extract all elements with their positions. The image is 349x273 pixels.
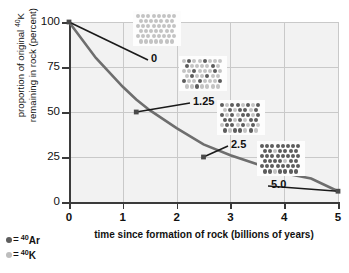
atom-argon-40 [241,123,245,127]
atom-potassium-40 [154,39,158,43]
atom-argon-40 [281,164,285,168]
atom-argon-40 [265,164,269,168]
atom-potassium-40 [283,159,287,163]
atom-potassium-40 [216,84,220,88]
atom-grid-caption: 0 [151,52,157,64]
atom-potassium-40 [223,108,227,112]
atom-potassium-40 [256,123,260,127]
atom-potassium-40 [251,103,255,107]
legend-argon-dot-icon [6,237,12,243]
atom-potassium-40 [154,29,158,33]
atom-argon-40 [286,154,290,158]
atom-potassium-40 [251,113,255,117]
atom-potassium-40 [136,24,140,28]
atom-argon-40 [254,108,258,112]
atom-potassium-40 [273,149,277,153]
y-tick-mark [62,22,70,24]
y-tick-mark [62,157,70,159]
atom-potassium-40 [170,29,174,33]
atom-potassium-40 [167,34,171,38]
x-tick-label: 3 [218,211,242,223]
atom-potassium-40 [139,29,143,33]
atom-argon-40 [223,128,227,132]
atom-argon-40 [276,164,280,168]
atom-argon-40 [198,79,202,83]
atom-grid [217,100,265,135]
atom-argon-40 [225,123,229,127]
atom-potassium-40 [220,123,224,127]
atom-potassium-40 [236,113,240,117]
atom-potassium-40 [187,69,191,73]
atom-potassium-40 [152,24,156,28]
atom-argon-40 [278,159,282,163]
atom-potassium-40 [243,118,247,122]
atom-argon-40 [268,159,272,163]
atom-potassium-40 [144,39,148,43]
atom-potassium-40 [228,128,232,132]
atom-grid [179,56,227,91]
x-tick-mark [177,202,179,209]
y-tick-label: 25 [30,150,60,162]
atom-potassium-40 [139,39,143,43]
atom-argon-40 [270,164,274,168]
atom-potassium-40 [172,34,176,38]
legend-equals-sign: = [13,249,19,260]
atom-potassium-40 [216,64,220,68]
atom-argon-40 [276,154,280,158]
atom-argon-40 [289,169,293,173]
atom-argon-40 [230,123,234,127]
atom-potassium-40 [154,19,158,23]
atom-argon-40 [223,118,227,122]
x-tick-mark [338,202,340,209]
atom-argon-40 [268,149,272,153]
atom-potassium-40 [243,128,247,132]
atom-argon-40 [294,149,298,153]
atom-argon-40 [291,154,295,158]
atom-argon-40 [190,74,194,78]
atom-potassium-40 [211,84,215,88]
atom-potassium-40 [167,24,171,28]
atom-argon-40 [286,144,290,148]
atom-grid [133,11,181,46]
atom-argon-40 [238,118,242,122]
atom-potassium-40 [139,19,143,23]
atom-argon-40 [218,79,222,83]
atom-argon-40 [228,118,232,122]
atom-potassium-40 [195,64,199,68]
atom-potassium-40 [241,103,245,107]
atom-potassium-40 [146,14,150,18]
legend: =40Ar=40K [6,232,40,262]
y-tick-mark [62,67,70,69]
atom-potassium-40 [170,39,174,43]
atom-argon-40 [211,64,215,68]
atom-potassium-40 [213,59,217,63]
atom-argon-40 [203,59,207,63]
x-tick-mark [230,202,232,209]
atom-argon-40 [265,144,269,148]
atom-argon-40 [263,159,267,163]
atom-argon-40 [265,154,269,158]
atom-potassium-40 [182,69,186,73]
x-tick-label: 2 [165,211,189,223]
atom-argon-40 [182,79,186,83]
y-axis-title: proportion of original 40Kremaining in r… [12,0,38,150]
legend-equals-sign: = [13,234,19,245]
atom-argon-40 [230,113,234,117]
atom-potassium-40 [146,34,150,38]
x-tick-label: 5 [326,211,349,223]
atom-potassium-40 [198,69,202,73]
atom-argon-40 [294,169,298,173]
atom-argon-40 [241,113,245,117]
atom-argon-40 [283,149,287,153]
atom-potassium-40 [195,74,199,78]
atom-argon-40 [256,113,260,117]
atom-potassium-40 [233,108,237,112]
atom-potassium-40 [185,84,189,88]
y-tick-label: 0 [30,195,60,207]
atom-potassium-40 [157,34,161,38]
atom-argon-40 [243,108,247,112]
atom-argon-40 [205,74,209,78]
atom-argon-40 [260,164,264,168]
atom-argon-40 [260,144,264,148]
atom-potassium-40 [216,74,220,78]
